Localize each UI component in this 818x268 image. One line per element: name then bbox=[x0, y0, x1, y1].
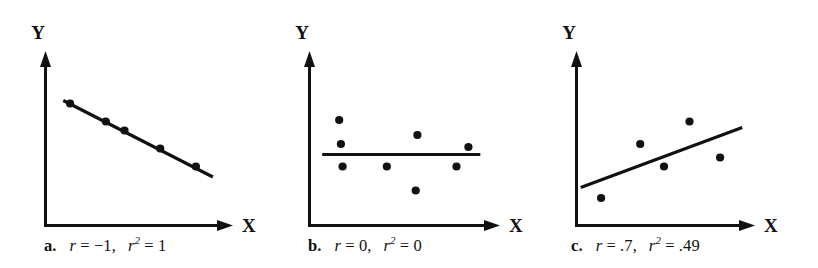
y-axis-arrow-icon bbox=[304, 51, 315, 67]
panel-b-axes: Y X bbox=[295, 22, 523, 236]
r-equals: = bbox=[341, 236, 359, 255]
panel-c-axes: Y X bbox=[562, 22, 778, 236]
x-axis-label: X bbox=[242, 215, 256, 236]
y-axis-label: Y bbox=[562, 22, 576, 43]
r-equals: = bbox=[76, 236, 94, 255]
x-axis-label: X bbox=[764, 215, 778, 236]
panel-c-plot: Y X bbox=[531, 0, 803, 268]
panel-a-data-layer bbox=[63, 99, 213, 177]
data-point bbox=[335, 116, 343, 124]
x-axis-arrow-icon bbox=[739, 220, 755, 231]
r2-equals: = bbox=[140, 236, 158, 255]
x-axis-arrow-icon bbox=[484, 220, 500, 231]
data-point bbox=[192, 162, 200, 170]
r-value: .7 bbox=[620, 236, 633, 255]
y-axis-arrow-icon bbox=[571, 51, 582, 67]
r2-value: 0 bbox=[414, 236, 422, 255]
data-point bbox=[452, 162, 460, 170]
panel-a: Y X a.r = −1,r2 = 1 bbox=[0, 0, 272, 268]
data-point bbox=[66, 99, 74, 107]
data-point bbox=[383, 162, 391, 170]
r2-value: 1 bbox=[158, 236, 166, 255]
data-point bbox=[464, 143, 472, 151]
panel-a-plot: Y X bbox=[0, 0, 272, 268]
data-point-group bbox=[597, 117, 724, 202]
caption-comma: , bbox=[112, 236, 116, 255]
x-axis-arrow-icon bbox=[217, 220, 233, 231]
data-point bbox=[102, 117, 110, 125]
data-point bbox=[339, 162, 347, 170]
data-point bbox=[597, 194, 605, 202]
r2-equals: = bbox=[661, 236, 679, 255]
r-equals: = bbox=[602, 236, 620, 255]
data-point bbox=[685, 117, 693, 125]
data-point bbox=[716, 153, 724, 161]
data-point bbox=[660, 162, 668, 170]
panel-b-data-layer bbox=[322, 116, 480, 195]
panel-c-caption: c.r = .7,r2 = .49 bbox=[571, 234, 818, 262]
data-point bbox=[120, 126, 128, 134]
data-point bbox=[412, 186, 420, 194]
panel-letter: b. bbox=[308, 236, 322, 255]
data-point bbox=[636, 140, 644, 148]
x-axis-label: X bbox=[509, 215, 523, 236]
panel-b-plot: Y X bbox=[264, 0, 536, 268]
panel-letter: a. bbox=[44, 236, 57, 255]
data-point bbox=[337, 140, 345, 148]
data-point bbox=[156, 144, 164, 152]
panel-c-data-layer bbox=[581, 117, 743, 202]
r-value: 0 bbox=[359, 236, 367, 255]
regression-line bbox=[63, 101, 213, 178]
y-axis-label: Y bbox=[31, 22, 45, 43]
data-point bbox=[413, 131, 421, 139]
y-axis-label: Y bbox=[295, 22, 309, 43]
y-axis-arrow-icon bbox=[40, 51, 51, 67]
r-value: −1 bbox=[94, 236, 112, 255]
r2-value: .49 bbox=[679, 236, 700, 255]
panel-c: Y X c.r = .7,r2 = .49 bbox=[531, 0, 803, 268]
panel-b: Y X b.r = 0,r2 = 0 bbox=[264, 0, 536, 268]
caption-comma: , bbox=[633, 236, 637, 255]
r2-equals: = bbox=[396, 236, 414, 255]
correlation-scatterplot-figure: Y X a.r = −1,r2 = 1 Y X bbox=[0, 0, 818, 268]
panel-letter: c. bbox=[571, 236, 583, 255]
caption-comma: , bbox=[367, 236, 371, 255]
panel-a-axes: Y X bbox=[31, 22, 256, 236]
